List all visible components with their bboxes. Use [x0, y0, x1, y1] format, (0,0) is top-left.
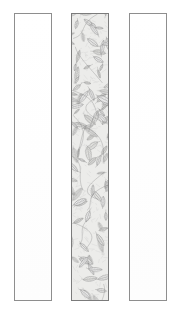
illustration-canvas: [0, 0, 179, 322]
right-blank-panel: [129, 13, 167, 301]
left-blank-panel: [14, 13, 52, 301]
leaf-pattern-illustration: [72, 14, 108, 300]
center-foliage-panel: [71, 13, 109, 301]
